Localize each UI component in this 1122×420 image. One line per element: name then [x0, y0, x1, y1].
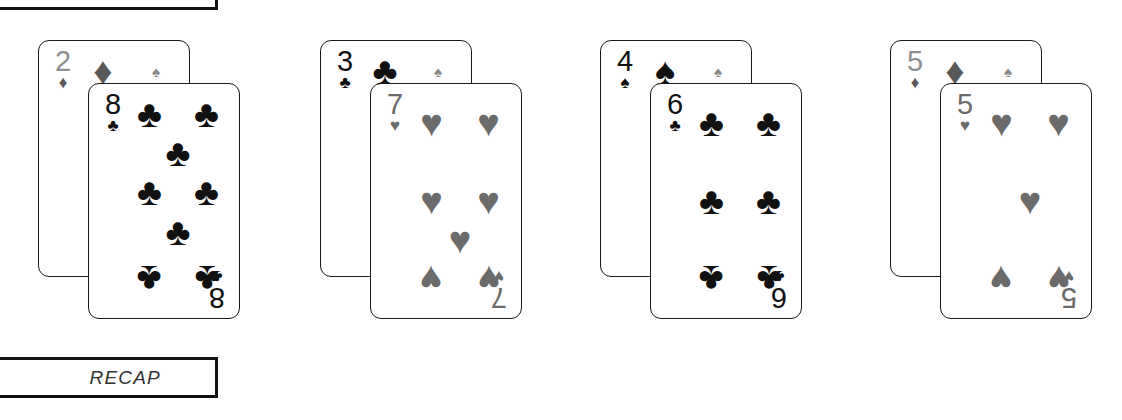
club-icon: ♣ [332, 75, 358, 91]
card-pip-heart: ♥ [981, 104, 1021, 142]
card-pip-club: ♣ [158, 134, 198, 172]
card-front-8-club[interactable]: 8♣8♣♣♣♣♣♣♣♣♣ [88, 83, 240, 319]
card-pip-heart: ♥ [469, 260, 509, 298]
card-pip-club: ♣ [129, 173, 169, 211]
card-pip-heart: ♥ [469, 104, 509, 142]
card-pair: 3♣♣♣♠7♥7♥♥♥♥♥♥♥♥ [312, 0, 592, 420]
marker-spade-icon: ♠ [714, 64, 722, 79]
card-index-top-left: 7♥ [382, 89, 408, 134]
card-pip-club: ♣ [129, 260, 169, 298]
card-pip-club: ♣ [691, 104, 731, 142]
card-pip-field: ♣♣♣♣♣♣♣♣ [127, 92, 229, 310]
card-pip-club: ♣ [158, 213, 198, 251]
card-pip-club: ♣ [187, 260, 227, 298]
card-pip-club: ♣ [187, 95, 227, 133]
diamond-icon: ♦ [50, 75, 76, 91]
card-rank: 5 [902, 46, 928, 76]
card-pip-club: ♣ [129, 95, 169, 133]
card-pip-club: ♣ [749, 182, 789, 220]
card-pip-heart: ♥ [1039, 104, 1079, 142]
card-pip-club: ♣ [749, 104, 789, 142]
spade-icon: ♠ [612, 75, 638, 91]
card-pip-heart: ♥ [469, 182, 509, 220]
card-pip-club: ♣ [691, 182, 731, 220]
card-pip-heart: ♥ [981, 260, 1021, 298]
card-pip-heart: ♥ [1010, 182, 1050, 220]
card-rank: 6 [662, 89, 688, 119]
marker-spade-icon: ♠ [434, 64, 442, 79]
card-index-top-left: 5♥ [952, 89, 978, 134]
club-icon: ♣ [100, 118, 126, 134]
heart-icon: ♥ [952, 118, 978, 134]
recap-box[interactable]: RECAP [0, 357, 218, 398]
card-pip-heart: ♥ [1039, 260, 1079, 298]
card-rank: 8 [100, 89, 126, 119]
card-index-top-left: 3♣ [332, 46, 358, 91]
card-front-6-club[interactable]: 6♣6♣♣♣♣♣♣♣ [650, 83, 802, 319]
card-rank: 5 [952, 89, 978, 119]
heart-icon: ♥ [382, 118, 408, 134]
card-pair: 5♦♦♦♠5♥5♥♥♥♥♥♥ [882, 0, 1122, 420]
card-pip-heart: ♥ [440, 221, 480, 259]
card-index-top-left: 6♣ [662, 89, 688, 134]
card-index-top-left: 8♣ [100, 89, 126, 134]
card-rank: 7 [382, 89, 408, 119]
card-pip-field: ♣♣♣♣♣♣ [689, 92, 791, 310]
card-pip-field: ♥♥♥♥♥♥♥ [409, 92, 511, 310]
card-pip-club: ♣ [691, 260, 731, 298]
recap-label: RECAP [90, 367, 161, 389]
card-pip-heart: ♥ [411, 260, 451, 298]
card-pair: 4♠♠♠♠6♣6♣♣♣♣♣♣♣ [592, 0, 872, 420]
diamond-icon: ♦ [902, 75, 928, 91]
card-rank: 4 [612, 46, 638, 76]
card-pip-club: ♣ [749, 260, 789, 298]
card-front-7-heart[interactable]: 7♥7♥♥♥♥♥♥♥♥ [370, 83, 522, 319]
card-pip-field: ♥♥♥♥♥ [979, 92, 1081, 310]
card-index-top-left: 5♦ [902, 46, 928, 91]
marker-spade-icon: ♠ [152, 64, 160, 79]
card-rank: 2 [50, 46, 76, 76]
card-pip-heart: ♥ [411, 104, 451, 142]
card-index-top-left: 2♦ [50, 46, 76, 91]
marker-spade-icon: ♠ [1004, 64, 1012, 79]
club-icon: ♣ [662, 118, 688, 134]
card-pip-club: ♣ [187, 173, 227, 211]
card-rank: 3 [332, 46, 358, 76]
card-front-5-heart[interactable]: 5♥5♥♥♥♥♥♥ [940, 83, 1092, 319]
card-pip-heart: ♥ [411, 182, 451, 220]
card-index-top-left: 4♠ [612, 46, 638, 91]
